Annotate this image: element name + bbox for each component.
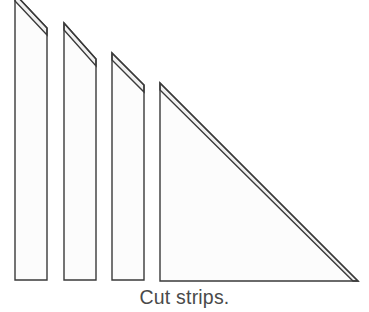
strip-1-face: [15, 1, 47, 280]
shape-strip-1: [15, 0, 47, 280]
strip-3-face: [112, 60, 144, 280]
figure-caption: Cut strips.: [0, 285, 369, 309]
figure-container: Cut strips.: [0, 0, 369, 312]
cut-strips-illustration: [0, 0, 369, 312]
shape-strip-3: [112, 53, 144, 280]
shape-strip-2: [64, 23, 96, 280]
strip-2-face: [64, 30, 96, 280]
